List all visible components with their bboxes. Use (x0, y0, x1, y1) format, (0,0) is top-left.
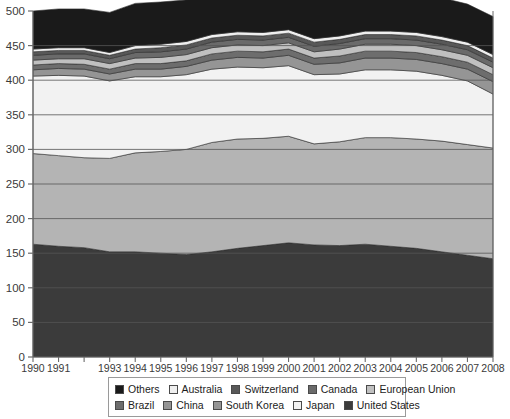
legend-label-others: Others (128, 384, 160, 395)
legend-label-brazil: Brazil (128, 400, 154, 411)
legend-label-china: China (176, 400, 203, 411)
legend-row: BrazilChinaSouth KoreaJapanUnited States (115, 397, 399, 413)
x-tick-label: 1997 (200, 362, 224, 372)
legend-swatch-united-states (344, 401, 353, 410)
x-tick-label: 2007 (456, 362, 480, 372)
legend-entry-united-states[interactable]: United States (344, 400, 420, 411)
x-tick-label: 2000 (277, 362, 301, 372)
legend-entry-canada[interactable]: Canada (308, 384, 358, 395)
legend-swatch-australia (169, 385, 178, 394)
legend-row: OthersAustraliaSwitzerlandCanadaEuropean… (115, 381, 399, 397)
area-series-layer (33, 0, 493, 357)
x-tick-label: 1994 (124, 362, 148, 372)
y-tick-label: 450 (6, 40, 25, 52)
x-tick-label: 1995 (149, 362, 173, 372)
area-series-united-states (33, 243, 493, 357)
legend-swatch-switzerland (231, 385, 240, 394)
legend-swatch-brazil (115, 401, 124, 410)
y-tick-label: 500 (6, 5, 25, 17)
chart-screenshot: 050100150200250300350400450500 199019911… (0, 0, 510, 419)
x-tick-label: 1998 (226, 362, 250, 372)
x-tick-label: 1999 (251, 362, 275, 372)
legend-entry-switzerland[interactable]: Switzerland (231, 384, 298, 395)
y-tick-label: 100 (6, 282, 25, 294)
legend-entry-others[interactable]: Others (115, 384, 160, 395)
legend-entry-european-union[interactable]: European Union (366, 384, 455, 395)
legend-entry-china[interactable]: China (163, 400, 203, 411)
legend-label-switzerland: Switzerland (244, 384, 298, 395)
legend-swatch-canada (308, 385, 317, 394)
y-tick-label: 50 (12, 316, 25, 328)
chart-plot-area: 050100150200250300350400450500 199019911… (0, 0, 510, 372)
x-axis-ticks: 1990199119931994199519961997199819992000… (21, 357, 505, 372)
legend-entry-brazil[interactable]: Brazil (115, 400, 154, 411)
legend-label-south-korea: South Korea (226, 400, 284, 411)
legend-label-japan: Japan (306, 400, 335, 411)
legend-swatch-japan (293, 401, 302, 410)
x-tick-label: 2004 (379, 362, 403, 372)
legend-label-canada: Canada (321, 384, 358, 395)
x-tick-label: 1996 (175, 362, 199, 372)
legend-swatch-european-union (366, 385, 375, 394)
y-tick-label: 400 (6, 74, 25, 86)
y-tick-label: 300 (6, 143, 25, 155)
legend-entry-australia[interactable]: Australia (169, 384, 223, 395)
legend-swatch-others (115, 385, 124, 394)
chart-legend: OthersAustraliaSwitzerlandCanadaEuropean… (108, 377, 406, 417)
y-tick-label: 200 (6, 213, 25, 225)
x-tick-label: 2001 (302, 362, 326, 372)
stacked-area-chart: 050100150200250300350400450500 199019911… (0, 0, 510, 372)
y-tick-label: 350 (6, 109, 25, 121)
x-tick-label: 2002 (328, 362, 352, 372)
y-tick-label: 150 (6, 247, 25, 259)
y-axis-ticks: 050100150200250300350400450500 (6, 5, 33, 363)
x-tick-label: 2003 (354, 362, 378, 372)
x-tick-label: 2008 (481, 362, 505, 372)
x-tick-label: 2005 (405, 362, 429, 372)
x-tick-label: 1991 (47, 362, 71, 372)
legend-entry-japan[interactable]: Japan (293, 400, 335, 411)
legend-swatch-south-korea (213, 401, 222, 410)
x-tick-label: 2006 (430, 362, 454, 372)
x-tick-label: 1990 (21, 362, 45, 372)
legend-swatch-china (163, 401, 172, 410)
legend-label-european-union: European Union (379, 384, 455, 395)
legend-entry-south-korea[interactable]: South Korea (213, 400, 284, 411)
legend-label-australia: Australia (182, 384, 223, 395)
legend-label-united-states: United States (357, 400, 420, 411)
x-tick-label: 1993 (98, 362, 122, 372)
y-tick-label: 250 (6, 178, 25, 190)
